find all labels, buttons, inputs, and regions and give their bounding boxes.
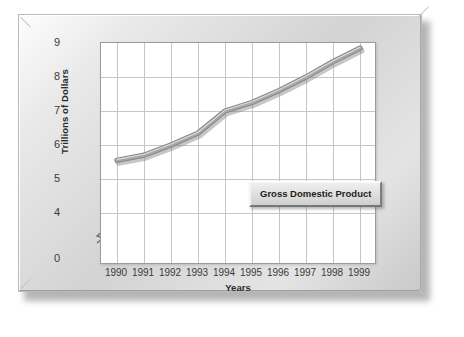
- x-axis-title: Years: [100, 282, 376, 293]
- data-series-gdp: [101, 43, 375, 263]
- legend-gross-domestic-product: Gross Domestic Product: [249, 181, 382, 207]
- y-tick-label-9: 9: [36, 36, 60, 48]
- plot-frame: [100, 42, 376, 264]
- chart-area: Trillions of Dollars 9 8 7 6 5 4 0: [18, 14, 422, 292]
- x-tick-label-1999: 1999: [342, 267, 376, 278]
- y-tick-label-5: 5: [36, 172, 60, 184]
- chart-figure: Trillions of Dollars 9 8 7 6 5 4 0: [0, 0, 464, 337]
- y-axis-title: Trillions of Dollars: [59, 52, 70, 172]
- y-tick-label-0: 0: [36, 252, 60, 264]
- y-tick-label-4: 4: [36, 206, 60, 218]
- y-tick-label-8: 8: [36, 70, 60, 82]
- legend-label: Gross Domestic Product: [260, 188, 371, 199]
- y-tick-label-6: 6: [36, 138, 60, 150]
- y-tick-label-7: 7: [36, 104, 60, 116]
